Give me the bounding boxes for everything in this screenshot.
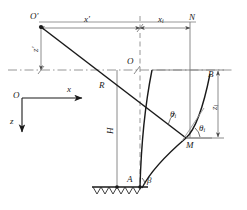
label-dim-x-prime: x′ xyxy=(84,15,90,24)
label-axis-origin-text: O xyxy=(13,90,20,100)
label-origin: O xyxy=(127,57,134,66)
label-origin-prime: O′ xyxy=(30,12,38,21)
label-point-n: N xyxy=(189,13,195,22)
label-angle-beta-text: β xyxy=(147,175,151,185)
label-dim-x-i: xi xyxy=(158,15,164,24)
label-theta-i-lower-sub: i xyxy=(203,127,205,133)
label-point-n-text: N xyxy=(189,12,195,22)
label-point-m-text: M xyxy=(186,140,194,150)
label-dim-z-i-text: z xyxy=(209,106,219,110)
label-axis-origin: O xyxy=(13,91,20,100)
label-point-a: A xyxy=(127,175,133,184)
local-coordinate-axes xyxy=(22,98,82,132)
angle-arc-beta xyxy=(142,178,145,184)
label-dim-z-i-sub: i xyxy=(213,105,219,107)
label-theta-i-upper-sub: i xyxy=(174,113,176,119)
label-angle-beta: β xyxy=(147,176,151,185)
label-dim-H-text: H xyxy=(105,128,115,135)
label-dim-H: H xyxy=(106,128,115,135)
label-dim-x-i-sub: i xyxy=(162,18,164,24)
label-dim-z-prime-mark: ′ xyxy=(30,47,40,49)
label-axis-z-text: z xyxy=(10,116,14,126)
label-point-r-text: R xyxy=(99,80,105,90)
dimension-ticks xyxy=(38,24,143,74)
label-point-b-text: B xyxy=(208,69,214,79)
label-point-b: B xyxy=(208,70,214,79)
label-axis-x: x xyxy=(67,85,71,94)
label-dim-z-prime: z′ xyxy=(31,47,40,52)
ground-surface xyxy=(92,185,148,194)
label-theta-i-lower: θi xyxy=(199,124,205,133)
label-axis-z: z xyxy=(10,117,14,126)
label-point-m: M xyxy=(186,141,194,150)
label-dim-z-prime-text: z xyxy=(30,48,40,52)
borehole-curve-left xyxy=(140,70,152,187)
label-point-a-text: A xyxy=(127,174,133,184)
label-dim-x-prime-mark: ′ xyxy=(88,14,90,24)
label-theta-i-upper: θi xyxy=(170,110,176,119)
ray-O-prime-to-M xyxy=(39,25,186,138)
label-point-r: R xyxy=(99,81,105,90)
label-origin-text: O xyxy=(127,56,134,66)
label-origin-prime-mark: ′ xyxy=(37,11,39,21)
label-axis-x-text: x xyxy=(67,84,71,94)
label-dim-z-i: zi xyxy=(210,105,219,110)
diagram-canvas: O′ x′ xi N z′ O R B zi O x z H θi θi xyxy=(0,0,247,210)
